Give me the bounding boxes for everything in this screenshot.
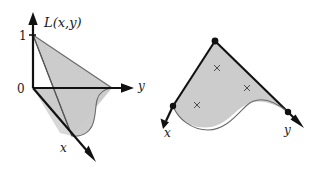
x-axis-label-right-panel: x	[164, 126, 171, 140]
apex-vertex-dot	[212, 38, 219, 45]
left-vertex-dot	[170, 103, 176, 109]
y-axis-label: y	[137, 79, 145, 93]
figure-canvas: L(x,y) 1 0 y x	[0, 0, 319, 169]
y-axis-label-right-panel: y	[283, 123, 291, 137]
x-axis-label: x	[60, 141, 67, 155]
figure-root: L(x,y) 1 0 y x	[0, 0, 319, 169]
tick-label-zero: 0	[17, 82, 25, 96]
tick-label-one: 1	[19, 29, 27, 43]
surface-label: L(x,y)	[43, 15, 82, 30]
right-vertex-dot	[285, 109, 291, 115]
